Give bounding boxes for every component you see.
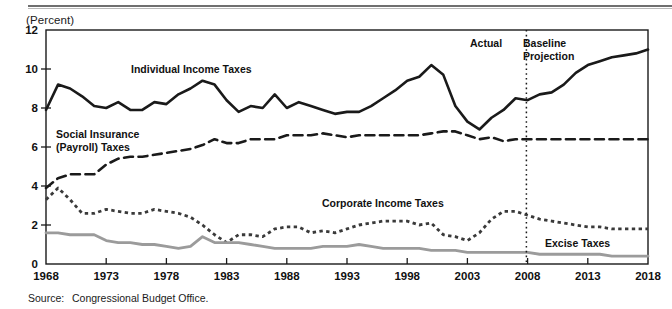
x-tick-label-2008: 2008 bbox=[498, 270, 558, 282]
y-tick-label-2: 2 bbox=[12, 219, 38, 231]
series-label-excise-taxes: Excise Taxes bbox=[545, 237, 610, 249]
x-tick-label-2018: 2018 bbox=[618, 270, 672, 282]
x-tick-label-1988: 1988 bbox=[257, 270, 317, 282]
chart-canvas bbox=[0, 0, 672, 309]
y-tick-label-6: 6 bbox=[12, 141, 38, 153]
x-tick-label-2003: 2003 bbox=[437, 270, 497, 282]
y-tick-label-10: 10 bbox=[12, 63, 38, 75]
region-label-actual: Actual bbox=[470, 37, 502, 49]
series-label-social-insurance-line2: (Payroll) Taxes bbox=[56, 141, 130, 153]
source-note: Source:Congressional Budget Office. bbox=[28, 292, 208, 304]
x-tick-label-1968: 1968 bbox=[16, 270, 76, 282]
source-text: Congressional Budget Office. bbox=[72, 292, 208, 304]
x-tick-label-2013: 2013 bbox=[558, 270, 618, 282]
region-label-baseline-line2: Projection bbox=[523, 50, 574, 62]
x-tick-label-1978: 1978 bbox=[136, 270, 196, 282]
series-label-social-insurance-line1: Social Insurance bbox=[56, 128, 139, 140]
y-tick-label-4: 4 bbox=[12, 180, 38, 192]
y-tick-label-12: 12 bbox=[12, 24, 38, 36]
x-tick-label-1973: 1973 bbox=[76, 270, 136, 282]
source-label: Source: bbox=[28, 292, 72, 304]
region-label-baseline-line1: Baseline bbox=[523, 37, 566, 49]
x-tick-label-1983: 1983 bbox=[197, 270, 257, 282]
y-tick-label-0: 0 bbox=[12, 258, 38, 270]
x-tick-label-1998: 1998 bbox=[377, 270, 437, 282]
series-label-individual-income-taxes: Individual Income Taxes bbox=[131, 63, 252, 75]
figure-root: (Percent) 024681012 19681973197819831988… bbox=[0, 0, 672, 309]
y-tick-label-8: 8 bbox=[12, 102, 38, 114]
x-tick-label-1993: 1993 bbox=[317, 270, 377, 282]
series-label-corporate-income-taxes: Corporate Income Taxes bbox=[322, 197, 444, 209]
